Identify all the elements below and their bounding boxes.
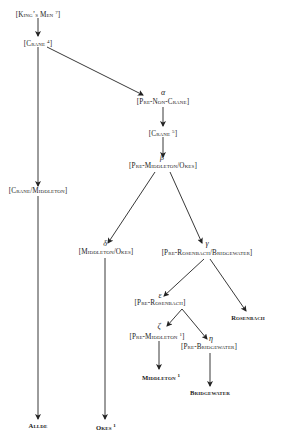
edge-crane4-pre-non-crane (47, 47, 143, 95)
node-label: [Middleton/Okes] (79, 248, 134, 256)
greek-gamma: γ (205, 240, 208, 248)
node-middleton1: Middleton 1 (142, 372, 180, 382)
stemma-edges (0, 0, 282, 435)
edge-pre-middleton-okes-pre-rosenbach-bridgewater (170, 172, 202, 243)
greek-eta: η (209, 335, 213, 343)
node-label: [Pre-Rosenbach] (135, 299, 186, 307)
node-middleton-okes: [Middleton/Okes] (79, 248, 134, 256)
greek-alpha: α (161, 89, 165, 97)
node-label: [Pre-Non-Crane] (137, 98, 189, 106)
node-label: [Crane (24, 40, 45, 48)
node-sup: 1 (177, 373, 180, 378)
node-kings-men: [King’s Men 7] (16, 9, 61, 19)
node-okes1: Okes 1 (96, 422, 116, 432)
node-label: [Pre-Middleton (129, 333, 177, 341)
node-pre-non-crane: [Pre-Non-Crane] (137, 98, 189, 106)
node-pre-rosenbach-bridgewater: [Pre-Rosenbach/Bridgewater] (162, 249, 253, 257)
node-crane4: [Crane 4] (24, 38, 52, 48)
bracket: ] (182, 333, 185, 341)
bracket: ] (175, 130, 178, 138)
node-label: Allde (29, 422, 48, 429)
node-pre-middleton-okes: [Pre-Middleton/Okes] (129, 162, 197, 170)
node-label: [Crane (149, 130, 170, 138)
bracket: ] (50, 40, 53, 48)
node-label: [Crane/Middleton] (9, 187, 67, 195)
node-pre-bridgewater: [Pre-Bridgewater] (181, 343, 237, 351)
edge-pre-rosenbach-pre-middleton1 (167, 309, 182, 326)
node-label: [Pre-Rosenbach/Bridgewater] (162, 249, 253, 257)
greek-beta: β (160, 154, 164, 162)
node-label: [King’s Men (16, 11, 54, 19)
node-allde: Allde (29, 422, 48, 430)
node-sup: 1 (113, 423, 116, 428)
node-pre-middleton1: [Pre-Middleton 1] (129, 331, 184, 341)
node-label: Bridgewater (190, 389, 230, 396)
greek-zeta: ζ (157, 323, 160, 331)
node-label: Okes (96, 424, 112, 431)
node-label: Middleton (142, 374, 176, 381)
node-crane-middleton: [Crane/Middleton] (9, 187, 67, 195)
edge-pre-rosenbach-bridgewater-pre-rosenbach (164, 259, 204, 296)
greek-delta: δ (103, 240, 107, 248)
node-label: Rosenbach (231, 314, 265, 321)
node-label: [Pre-Middleton/Okes] (129, 162, 197, 170)
edge-pre-rosenbach-bridgewater-rosenbach (210, 259, 246, 311)
bracket: ] (58, 11, 61, 19)
node-crane5: [Crane 5] (149, 128, 177, 138)
edge-pre-middleton-okes-middleton-okes (108, 172, 155, 243)
edge-pre-rosenbach-pre-bridgewater (182, 309, 207, 339)
node-label: [Pre-Bridgewater] (181, 343, 237, 351)
node-pre-rosenbach: [Pre-Rosenbach] (135, 299, 186, 307)
node-bridgewater: Bridgewater (190, 389, 230, 397)
node-rosenbach: Rosenbach (231, 314, 265, 322)
